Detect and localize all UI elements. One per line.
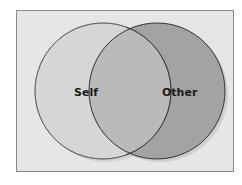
other-label: Other [162,86,198,99]
self-label: Self [74,86,98,99]
venn-diagram: Self Other [0,0,242,185]
